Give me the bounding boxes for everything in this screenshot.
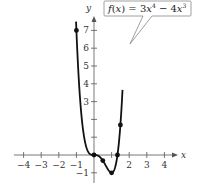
callout-label: f(x) = 3x4 − 4x3 (107, 2, 186, 14)
x-tick-label: 4 (162, 160, 168, 170)
x-tick-label: 3 (144, 160, 150, 170)
x-tick-label: 2 (126, 160, 132, 170)
y-tick-label: 5 (83, 61, 89, 71)
y-axis-label: y (85, 3, 92, 13)
x-axis-label: x (181, 150, 186, 160)
data-point (92, 153, 97, 158)
data-point (115, 153, 120, 158)
y-tick-label: 3 (83, 97, 89, 107)
data-point (109, 170, 114, 175)
x-tick-label: −4 (17, 160, 31, 170)
y-tick-label: 7 (83, 25, 89, 35)
axes (14, 16, 178, 183)
function-callout: f(x) = 3x4 − 4x3 (104, 1, 191, 44)
y-tick-label: −1 (76, 168, 89, 178)
x-tick-label: −3 (35, 160, 49, 170)
x-tick-label: −2 (52, 160, 65, 170)
data-point (118, 123, 123, 128)
data-point (74, 28, 79, 33)
marked-points (74, 28, 123, 175)
y-tick-label: 4 (83, 79, 89, 89)
y-tick-label: 6 (83, 43, 89, 53)
data-point (100, 158, 105, 163)
x-axis-arrow-icon (172, 153, 178, 158)
y-axis-arrow-icon (92, 16, 97, 22)
function-graph: −4−3−2−1234−134567 f(x) = 3x4 − 4x3 x y (0, 0, 201, 191)
